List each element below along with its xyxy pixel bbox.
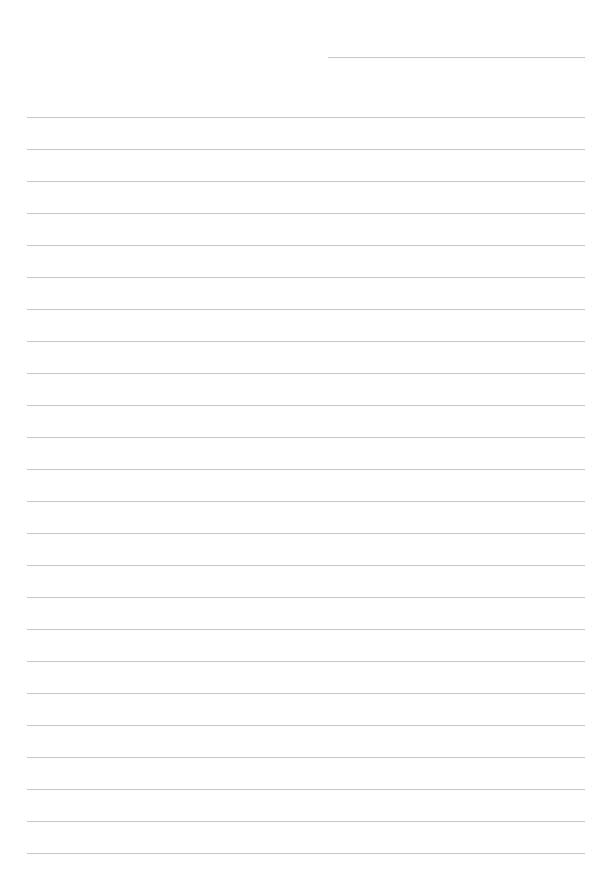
- ruled-line: [27, 853, 585, 854]
- ruled-line: [27, 757, 585, 758]
- ruled-line: [27, 437, 585, 438]
- ruled-line: [27, 597, 585, 598]
- header-rule: [328, 57, 585, 58]
- ruled-line: [27, 821, 585, 822]
- ruled-line: [27, 533, 585, 534]
- ruled-line: [27, 789, 585, 790]
- ruled-line: [27, 373, 585, 374]
- ruled-line: [27, 149, 585, 150]
- lined-page: [0, 0, 608, 893]
- ruled-line: [27, 725, 585, 726]
- ruled-line: [27, 181, 585, 182]
- ruled-line: [27, 469, 585, 470]
- ruled-line: [27, 117, 585, 118]
- ruled-line: [27, 213, 585, 214]
- ruled-line: [27, 245, 585, 246]
- ruled-line: [27, 277, 585, 278]
- ruled-line: [27, 309, 585, 310]
- ruled-line: [27, 501, 585, 502]
- ruled-line: [27, 565, 585, 566]
- ruled-line: [27, 341, 585, 342]
- ruled-line: [27, 661, 585, 662]
- ruled-line: [27, 629, 585, 630]
- ruled-line: [27, 405, 585, 406]
- ruled-line: [27, 693, 585, 694]
